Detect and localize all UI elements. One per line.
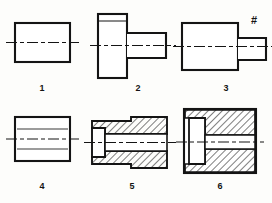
figure-1-geometry bbox=[6, 23, 79, 62]
figure-3-geometry bbox=[173, 23, 272, 70]
drawing-sheet: # 1 2 3 4 5 6 bbox=[0, 0, 272, 203]
figure-6-label: 6 bbox=[212, 181, 228, 191]
figure-4-geometry bbox=[6, 117, 79, 161]
figure-5-geometry bbox=[84, 117, 176, 168]
figure-4-label: 4 bbox=[34, 181, 50, 191]
drawing-canvas bbox=[0, 0, 272, 203]
figure-2-geometry bbox=[90, 14, 176, 78]
figure-1-label: 1 bbox=[34, 83, 50, 93]
figure-6-geometry bbox=[176, 109, 264, 173]
figure-3-label: 3 bbox=[218, 83, 234, 93]
figure-2-label: 2 bbox=[130, 83, 146, 93]
figure-6-counterbore-void bbox=[189, 118, 205, 164]
hash-mark-icon: # bbox=[251, 15, 257, 26]
figure-5-label: 5 bbox=[124, 181, 140, 191]
figure-3-boss-outline bbox=[238, 38, 266, 60]
